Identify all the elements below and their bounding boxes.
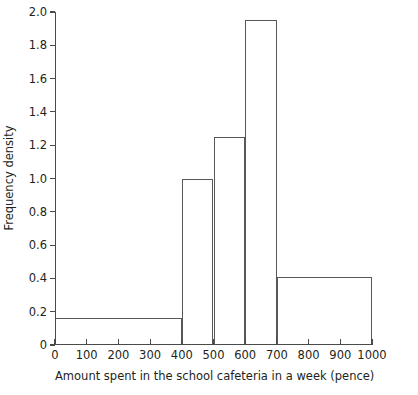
y-tick-label-1.4: 1.4 xyxy=(29,105,47,119)
histogram-bar xyxy=(214,137,246,345)
x-tick-label-200: 200 xyxy=(107,348,129,362)
y-tick-label-0.6: 0.6 xyxy=(29,238,47,252)
x-tick-label-800: 800 xyxy=(298,348,320,362)
x-tick-label-0: 0 xyxy=(51,348,58,362)
x-axis-line xyxy=(55,344,373,345)
x-tick-label-500: 500 xyxy=(203,348,225,362)
x-tick-label-1000: 1000 xyxy=(357,348,386,362)
x-tick-label-400: 400 xyxy=(171,348,193,362)
x-tick-label-700: 700 xyxy=(266,348,288,362)
y-tick-label-0.8: 0.8 xyxy=(29,205,47,219)
y-tick-label-0: 0 xyxy=(40,338,47,352)
y-axis-line xyxy=(55,12,56,345)
x-tick-label-600: 600 xyxy=(234,348,256,362)
histogram-bar xyxy=(245,20,277,345)
y-axis-title: Frequency density xyxy=(2,125,16,230)
plot-area: 0100200300400500600700800900100000.20.40… xyxy=(0,0,418,395)
y-tick-label-0.4: 0.4 xyxy=(29,271,47,285)
histogram-figure: 0100200300400500600700800900100000.20.40… xyxy=(0,0,418,395)
x-axis-title: Amount spent in the school cafeteria in … xyxy=(55,369,373,383)
x-tick-label-900: 900 xyxy=(329,348,351,362)
x-tick-label-300: 300 xyxy=(139,348,161,362)
y-tick-label-1.2: 1.2 xyxy=(29,138,47,152)
histogram-bar xyxy=(182,179,214,346)
y-tick-label-1.0: 1.0 xyxy=(29,172,47,186)
y-tick-label-0.2: 0.2 xyxy=(29,305,47,319)
y-tick-label-1.8: 1.8 xyxy=(29,38,47,52)
y-tick-label-2.0: 2.0 xyxy=(29,5,47,19)
y-tick-label-1.6: 1.6 xyxy=(29,72,47,86)
x-tick-label-100: 100 xyxy=(76,348,98,362)
histogram-bar xyxy=(277,277,372,345)
